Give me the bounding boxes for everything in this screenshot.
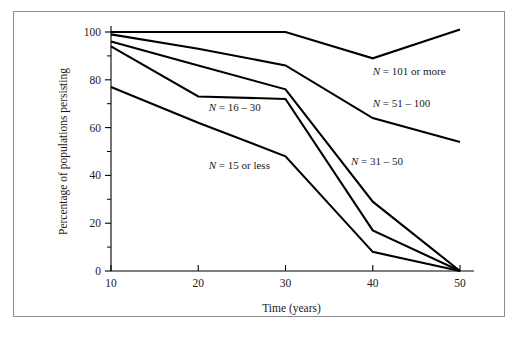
y-tick-label: 0 [95, 265, 101, 277]
y-tick-label: 100 [84, 26, 102, 38]
x-tick-label: 10 [105, 277, 117, 289]
series-label-4: N = 15 or less [208, 159, 270, 171]
figure-frame: 020406080100 1020304050 N = 101 or moreN… [13, 11, 505, 317]
series-label-2: N = 31 – 50 [350, 155, 404, 167]
y-tick-label: 20 [90, 217, 102, 229]
x-tick-label: 30 [280, 277, 292, 289]
series-labels-group: N = 101 or moreN = 51 – 100N = 31 – 50N … [208, 65, 446, 171]
series-line-1 [111, 34, 460, 142]
x-tick-label: 40 [367, 277, 379, 289]
y-tick-label: 80 [90, 74, 102, 86]
series-line-4 [111, 87, 460, 271]
series-line-3 [111, 46, 460, 271]
figure-root: 020406080100 1020304050 N = 101 or moreN… [0, 0, 523, 338]
x-tick-label: 50 [454, 277, 466, 289]
x-axis-title: Time (years) [262, 302, 321, 315]
y-axis-title: Percentage of populations persisting [57, 68, 70, 235]
y-axis-ticks: 020406080100 [84, 26, 111, 277]
series-label-1: N = 51 – 100 [372, 97, 431, 109]
chart-axes [111, 26, 474, 271]
y-tick-label: 40 [90, 169, 102, 181]
line-chart: 020406080100 1020304050 N = 101 or moreN… [14, 12, 504, 316]
series-label-0: N = 101 or more [372, 65, 446, 77]
x-tick-label: 20 [193, 277, 205, 289]
series-label-3: N = 16 – 30 [208, 101, 262, 113]
x-axis-ticks: 1020304050 [105, 265, 466, 289]
y-tick-label: 60 [90, 122, 102, 134]
